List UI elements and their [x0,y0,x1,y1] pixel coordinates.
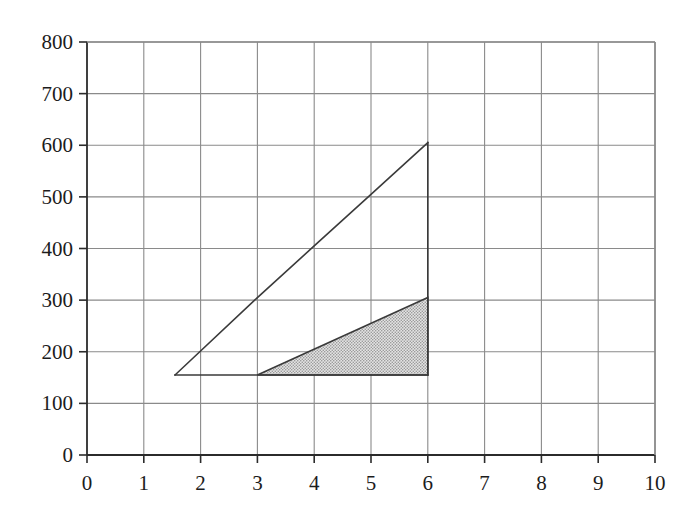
x-tick-label: 8 [536,473,547,494]
chart-container: 0100200300400500600700800 012345678910 [0,0,695,511]
x-tick-label: 9 [593,473,604,494]
x-tick-label: 5 [366,473,377,494]
x-tick-label: 10 [645,473,666,494]
shaded-region-layer [257,298,427,375]
plot-area [0,0,695,511]
y-tick-label: 500 [42,186,74,207]
y-tick-label: 100 [42,393,74,414]
gridlines [87,42,655,455]
x-tick-label: 4 [309,473,320,494]
y-tick-label: 0 [63,445,74,466]
x-tick-label: 0 [82,473,93,494]
y-tick-label: 300 [42,290,74,311]
y-tick-label: 200 [42,341,74,362]
x-tick-label: 7 [479,473,490,494]
shaded-triangle [257,298,427,375]
y-tick-label: 600 [42,135,74,156]
x-tick-label: 3 [252,473,263,494]
x-tick-label: 1 [139,473,150,494]
axes [79,42,655,463]
x-tick-label: 6 [423,473,434,494]
x-tick-label: 2 [195,473,206,494]
y-tick-label: 800 [42,32,74,53]
y-tick-label: 400 [42,238,74,259]
y-tick-label: 700 [42,83,74,104]
